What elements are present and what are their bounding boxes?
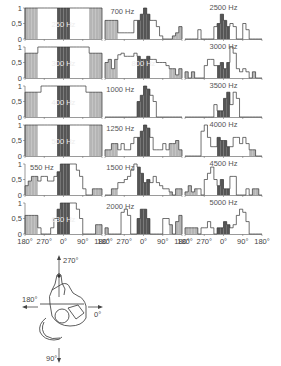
frequency-label: 700 Hz — [110, 7, 134, 16]
frequency-label: 3000 Hz — [210, 42, 238, 51]
histogram-bar — [35, 92, 38, 117]
histogram-bar — [121, 183, 124, 195]
histogram-bar — [246, 189, 249, 195]
y-tick-label: 0,5 — [12, 175, 22, 184]
histogram-bar — [47, 86, 50, 117]
histogram-bar — [243, 69, 246, 78]
histogram-bar — [230, 47, 233, 78]
histogram-bar — [127, 215, 130, 234]
frequency-label: 3500 Hz — [210, 81, 238, 90]
histogram-bar — [80, 8, 83, 39]
animal-head-sketch-icon — [40, 274, 86, 341]
histogram-bar — [25, 125, 28, 156]
label-180: 180° — [22, 295, 38, 304]
histogram-bar — [147, 128, 150, 156]
histogram-bar — [137, 137, 140, 156]
histogram-bar — [147, 89, 150, 117]
histogram-bar — [31, 176, 34, 195]
directional-response-figure: 10,50250 Hz10,50300 Hz10,50400 Hz10,5050… — [0, 0, 281, 366]
histogram-bar — [204, 180, 207, 196]
histogram-bar — [105, 63, 108, 79]
histogram-bar — [31, 92, 34, 117]
histogram-bar — [51, 228, 54, 234]
histogram-bar — [252, 150, 255, 156]
histogram-bar — [150, 137, 153, 156]
histogram-bar — [227, 92, 230, 117]
y-tick-label: 1 — [18, 160, 22, 169]
histogram-panel: 10,50550 Hz — [12, 160, 102, 200]
histogram-bar — [31, 8, 34, 39]
histogram-bar — [35, 176, 38, 195]
frequency-label: 1000 Hz — [106, 85, 134, 94]
histogram-bar — [220, 141, 223, 157]
histogram-bar — [166, 66, 169, 78]
histogram-bar — [105, 20, 108, 39]
histogram-bar — [204, 228, 207, 234]
histogram-bar — [31, 215, 34, 234]
histogram-bar — [220, 180, 223, 196]
histogram-panel: 1250 Hz — [105, 124, 182, 158]
histogram-bar — [121, 53, 124, 78]
histogram-bar — [163, 219, 166, 235]
histogram-bar — [92, 125, 95, 156]
histogram-bar — [236, 69, 239, 78]
histogram-bar — [191, 72, 194, 78]
y-tick-label: 1 — [18, 4, 22, 13]
histogram-bar — [89, 8, 92, 39]
histogram-bar — [217, 228, 220, 234]
histogram-bar — [35, 53, 38, 78]
histogram-bar — [211, 167, 214, 195]
histogram-bar — [76, 8, 79, 39]
histogram-bar — [140, 131, 143, 156]
histogram-bar — [96, 125, 99, 156]
histogram-bar — [227, 189, 230, 195]
x-tick-label: 90° — [77, 237, 88, 246]
histogram-bar — [86, 47, 89, 78]
histogram-bar — [207, 137, 210, 156]
histogram-panel: 10,50300 Hz — [12, 43, 102, 83]
histogram-bar — [80, 176, 83, 195]
histogram-bar — [140, 173, 143, 195]
histogram-bar — [195, 228, 198, 234]
x-tick-label: 90° — [157, 237, 168, 246]
histogram-bar — [230, 228, 233, 234]
histogram-bar — [217, 137, 220, 156]
histogram-bar — [99, 225, 102, 234]
histogram-bar — [44, 125, 47, 156]
histogram-bar — [64, 164, 67, 195]
histogram-bar — [121, 33, 124, 39]
y-tick-label: 0,5 — [12, 97, 22, 106]
histogram-bar — [227, 147, 230, 156]
histogram-bar — [38, 228, 41, 234]
histogram-bar — [89, 92, 92, 117]
histogram-bar — [44, 8, 47, 39]
histogram-bar — [246, 30, 249, 39]
histogram-bar — [96, 8, 99, 39]
x-tick-label: 180° — [17, 237, 33, 246]
histogram-bar — [60, 164, 63, 195]
histogram-bar — [35, 125, 38, 156]
arrow-180-icon — [22, 305, 38, 309]
histogram-bar — [70, 164, 73, 195]
histogram-bar — [204, 125, 207, 156]
y-tick-label: 1 — [18, 82, 22, 91]
histogram-bar — [214, 105, 217, 117]
histogram-bar — [80, 219, 83, 235]
histogram-bar — [230, 176, 233, 195]
histogram-bar — [191, 192, 194, 195]
histogram-bar — [243, 137, 246, 156]
histogram-bar — [76, 209, 79, 234]
histogram-bar — [111, 189, 114, 195]
y-tick-label: 0,5 — [12, 214, 22, 223]
histogram-bar — [83, 189, 86, 195]
histogram-bar — [227, 27, 230, 39]
frequency-label: 5000 Hz — [210, 198, 238, 207]
histogram-bar — [166, 189, 169, 195]
histogram-bar — [217, 186, 220, 195]
x-tick-label: 180° — [97, 237, 113, 246]
histogram-bar — [214, 180, 217, 196]
histogram-bar — [83, 125, 86, 156]
histogram-bar — [207, 222, 210, 234]
histogram-bar — [176, 189, 179, 195]
histogram-bar — [25, 53, 28, 78]
